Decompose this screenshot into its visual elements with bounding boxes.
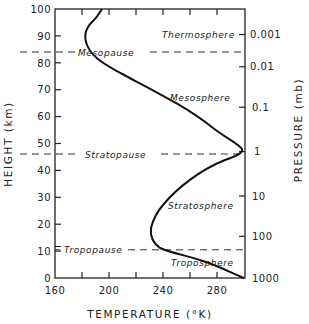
label-thermosphere: Thermosphere: [162, 30, 235, 40]
atmosphere-temperature-chart: 160 200 240 280 0 10 20 30 40 50 60 70 8…: [0, 0, 309, 324]
svg-text:60: 60: [37, 111, 51, 122]
svg-text:90: 90: [37, 31, 51, 42]
svg-text:240: 240: [153, 285, 174, 296]
svg-text:10: 10: [252, 191, 266, 202]
label-tropopause: Tropopause: [64, 245, 122, 255]
svg-text:80: 80: [37, 58, 51, 69]
svg-text:0.001: 0.001: [250, 29, 281, 40]
svg-text:0.1: 0.1: [252, 102, 269, 113]
svg-text:100: 100: [30, 4, 51, 15]
svg-text:1000: 1000: [252, 273, 279, 284]
label-mesopause: Mesopause: [78, 48, 134, 58]
label-troposphere: Troposphere: [171, 258, 234, 268]
y2-tick-labels: 0.001 0.01 0.1 1 10 100 1000: [250, 29, 281, 284]
svg-text:200: 200: [99, 285, 120, 296]
x-axis-title: TEMPERATURE (°K): [86, 308, 213, 320]
svg-text:0: 0: [44, 273, 51, 284]
svg-text:20: 20: [37, 219, 51, 230]
y2-axis-title: PRESSURE (mb): [292, 78, 304, 182]
svg-text:160: 160: [45, 285, 66, 296]
svg-text:40: 40: [37, 165, 51, 176]
x-axis-ticks: [82, 272, 217, 278]
svg-text:0.01: 0.01: [250, 61, 274, 72]
y-tick-labels: 0 10 20 30 40 50 60 70 80 90 100: [30, 4, 51, 284]
svg-text:30: 30: [37, 192, 51, 203]
layer-labels: Thermosphere Mesopause Mesosphere Strato…: [64, 30, 235, 268]
svg-text:1: 1: [254, 146, 261, 157]
y2-axis-ticks: [239, 35, 245, 237]
svg-text:100: 100: [252, 231, 273, 242]
y-axis-ticks: [55, 36, 61, 251]
svg-text:280: 280: [207, 285, 228, 296]
svg-text:50: 50: [37, 138, 51, 149]
label-stratosphere: Stratosphere: [168, 201, 234, 211]
svg-text:10: 10: [37, 246, 51, 257]
svg-text:70: 70: [37, 84, 51, 95]
label-mesosphere: Mesosphere: [170, 93, 230, 103]
x-tick-labels: 160 200 240 280: [45, 285, 228, 296]
label-stratopause: Stratopause: [85, 150, 146, 160]
y-axis-title: HEIGHT (km): [2, 101, 14, 187]
